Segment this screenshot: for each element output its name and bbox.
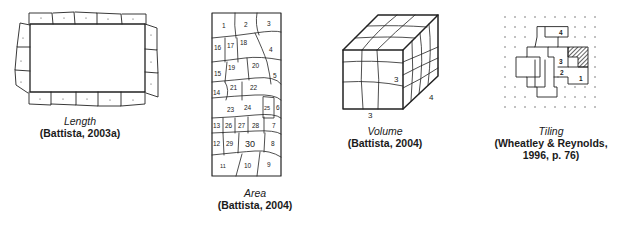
tiling-source-line2: 1996, p. 76) — [480, 149, 622, 161]
svg-text:27: 27 — [238, 122, 246, 129]
svg-text:16: 16 — [214, 44, 222, 51]
svg-text:13: 13 — [213, 122, 221, 129]
piece-label-2: 2 — [560, 69, 564, 76]
svg-text:29: 29 — [226, 140, 234, 147]
volume-panel: 3 4 3 Volume (Battista, 2004) — [320, 0, 450, 160]
svg-text:2: 2 — [244, 21, 248, 28]
tiling-title: Tiling — [480, 125, 622, 137]
svg-text:12: 12 — [213, 140, 221, 147]
length-source: (Battista, 2003a) — [0, 127, 160, 139]
svg-text:10: 10 — [244, 162, 252, 169]
svg-text:4: 4 — [429, 93, 434, 102]
tiling-diagram: 4 3 2 1 — [480, 0, 622, 120]
length-diagram — [0, 0, 160, 110]
svg-text:17: 17 — [227, 42, 235, 49]
svg-text:3: 3 — [394, 75, 399, 84]
volume-caption: Volume (Battista, 2004) — [320, 125, 450, 149]
length-caption: Length (Battista, 2003a) — [0, 115, 160, 139]
svg-text:23: 23 — [227, 106, 235, 113]
svg-text:6: 6 — [276, 104, 280, 111]
svg-text:20: 20 — [252, 62, 260, 69]
volume-title: Volume — [320, 125, 450, 137]
area-panel: 123 1617184 1920155 142122 2324256 13262… — [200, 0, 310, 225]
svg-text:25: 25 — [264, 105, 270, 111]
svg-text:11: 11 — [220, 163, 226, 169]
svg-text:3: 3 — [267, 20, 271, 27]
svg-text:19: 19 — [228, 64, 236, 71]
area-caption: Area (Battista, 2004) — [200, 187, 310, 211]
svg-text:8: 8 — [271, 140, 275, 147]
svg-text:22: 22 — [250, 84, 258, 91]
svg-text:5: 5 — [273, 72, 277, 79]
volume-diagram: 3 4 3 — [320, 0, 450, 120]
svg-text:28: 28 — [252, 122, 260, 129]
svg-text:3: 3 — [368, 111, 373, 120]
piece-label-1: 1 — [579, 75, 583, 82]
length-title: Length — [0, 115, 160, 127]
length-panel: Length (Battista, 2003a) — [0, 0, 160, 150]
svg-text:26: 26 — [225, 122, 233, 129]
svg-text:14: 14 — [213, 89, 221, 96]
svg-text:30: 30 — [245, 139, 255, 149]
piece-label-3: 3 — [559, 58, 563, 65]
svg-text:24: 24 — [244, 104, 252, 111]
tiling-source-line1: (Wheatley & Reynolds, — [480, 137, 622, 149]
svg-text:7: 7 — [272, 122, 276, 129]
svg-text:18: 18 — [240, 39, 248, 46]
area-title: Area — [200, 187, 310, 199]
svg-text:1: 1 — [222, 22, 226, 29]
tiling-caption: Tiling (Wheatley & Reynolds, 1996, p. 76… — [480, 125, 622, 161]
svg-text:15: 15 — [214, 70, 222, 77]
svg-text:9: 9 — [267, 161, 271, 168]
piece-label-4: 4 — [559, 29, 563, 36]
tiling-panel: 4 3 2 1 Tiling (Wheatley & Reynolds, 199… — [480, 0, 622, 175]
volume-source: (Battista, 2004) — [320, 137, 450, 149]
area-diagram: 123 1617184 1920155 142122 2324256 13262… — [200, 0, 310, 180]
svg-text:21: 21 — [230, 84, 238, 91]
area-source: (Battista, 2004) — [200, 199, 310, 211]
svg-text:4: 4 — [269, 46, 273, 53]
